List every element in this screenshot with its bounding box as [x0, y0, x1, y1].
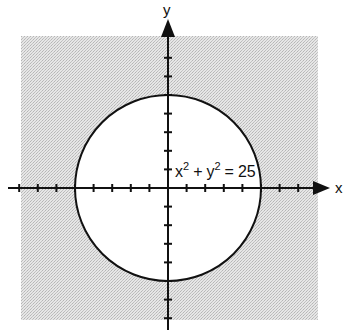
y-axis-label: y: [163, 1, 171, 18]
x-axis-arrow-icon: [313, 181, 330, 195]
y-axis-arrow-icon: [161, 19, 175, 37]
shaded-region: [21, 36, 318, 320]
circle-diagram: x y x2+y2=25: [0, 0, 345, 335]
x-axis-label: x: [335, 179, 343, 196]
